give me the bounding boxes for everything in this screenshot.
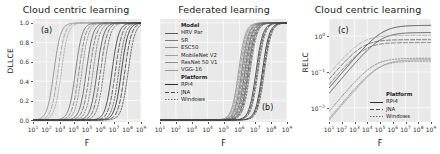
legend-item[interactable]: Windows <box>370 113 430 120</box>
x-tick-mark <box>342 122 343 124</box>
x-tick-label: 109 <box>278 125 296 133</box>
legend-group-header: Platform <box>165 74 231 81</box>
legend-item-label: SR <box>181 38 188 43</box>
panel-b-title: Federated learning <box>152 4 296 15</box>
legend-item-label: RPi4 <box>181 82 193 87</box>
x-tick-mark <box>114 122 115 124</box>
y-tick-label: 0.2 <box>11 97 29 104</box>
y-tick-label: 0.0 <box>11 117 29 124</box>
legend-item[interactable]: ResNet 50 V1 <box>165 59 231 66</box>
legend-line-swatch <box>165 44 178 51</box>
y-tick-mark <box>327 36 329 37</box>
x-tick-mark <box>33 122 34 124</box>
x-tick-mark <box>393 122 394 124</box>
legend-line-swatch <box>165 37 178 44</box>
y-tick-mark <box>31 23 33 24</box>
y-tick-mark <box>31 42 33 43</box>
x-tick-mark <box>367 122 368 124</box>
x-tick-mark <box>418 122 419 124</box>
legend-group-header: Platform <box>370 91 430 98</box>
x-tick-mark <box>128 122 129 124</box>
legend-group-label: Platform <box>370 92 412 97</box>
x-tick-mark <box>380 122 381 124</box>
legend-item-label: HRV Par <box>181 30 202 35</box>
y-tick-mark <box>31 120 33 121</box>
x-tick-mark <box>47 122 48 124</box>
panel-c-legend[interactable]: PlatformRPi4JNAWindows <box>370 91 430 121</box>
x-tick-mark <box>406 122 407 124</box>
panel-c-letter: (c) <box>338 26 349 35</box>
y-tick-label: 0.8 <box>11 39 29 46</box>
panel-a: Cloud centric learning DLLCE F (a) 0.00.… <box>0 0 152 154</box>
legend-item-label: Windows <box>386 114 410 119</box>
legend-line-swatch <box>165 30 178 37</box>
panel-c-title: Cloud centric learning <box>296 4 440 15</box>
panel-c: Cloud centric learning RELC F (c) Platfo… <box>296 0 440 154</box>
legend-item-label: JNA <box>386 107 395 112</box>
y-tick-label: 100 <box>305 32 325 40</box>
panel-b-legend[interactable]: ModelHRV ParSRESC50MobileNet V2ResNet 50… <box>165 22 231 103</box>
x-tick-mark <box>192 122 193 124</box>
x-tick-mark <box>74 122 75 124</box>
legend-item[interactable]: HRV Par <box>165 29 231 36</box>
y-tick-mark <box>327 108 329 109</box>
legend-item-label: ESC50 <box>181 45 198 50</box>
legend-item-label: Windows <box>181 97 205 102</box>
panel-b-xlabel: F <box>160 139 287 148</box>
y-tick-label: 0.4 <box>11 78 29 85</box>
legend-line-swatch <box>370 106 383 113</box>
legend-item[interactable]: JNA <box>370 106 430 113</box>
legend-item[interactable]: ESC50 <box>165 44 231 51</box>
y-tick-mark <box>31 81 33 82</box>
y-tick-mark <box>31 62 33 63</box>
x-tick-mark <box>239 122 240 124</box>
legend-item-label: VGG-16 <box>181 67 202 72</box>
x-tick-mark <box>329 122 330 124</box>
y-tick-mark <box>31 101 33 102</box>
legend-group-label: Model <box>165 23 199 28</box>
legend-item[interactable]: JNA <box>165 89 231 96</box>
y-tick-label: 10−2 <box>305 104 325 112</box>
panel-b-letter: (b) <box>262 103 273 112</box>
x-tick-mark <box>224 122 225 124</box>
y-tick-label: 10−1 <box>305 68 325 76</box>
legend-item[interactable]: Windows <box>165 96 231 103</box>
legend-item-label: JNA <box>181 90 190 95</box>
legend-item[interactable]: SR <box>165 37 231 44</box>
panel-b: Federated learning F (b) ModelHRV ParSRE… <box>152 0 296 154</box>
x-tick-mark <box>355 122 356 124</box>
legend-group-header: Model <box>165 22 231 29</box>
legend-line-swatch <box>165 67 178 74</box>
x-tick-mark <box>176 122 177 124</box>
panel-a-xlabel: F <box>33 139 141 148</box>
y-tick-label: 1.0 <box>11 19 29 26</box>
legend-line-swatch <box>165 81 178 88</box>
figure-root: Cloud centric learning DLLCE F (a) 0.00.… <box>0 0 440 154</box>
panel-a-title: Cloud centric learning <box>0 4 152 15</box>
legend-line-swatch <box>165 52 178 59</box>
x-tick-mark <box>208 122 209 124</box>
x-tick-mark <box>87 122 88 124</box>
legend-item[interactable]: MobileNet V2 <box>165 52 231 59</box>
x-tick-mark <box>271 122 272 124</box>
legend-item[interactable]: VGG-16 <box>165 66 231 73</box>
legend-line-swatch <box>165 89 178 96</box>
legend-item-label: RPi4 <box>386 99 398 104</box>
legend-group-label: Platform <box>165 75 207 80</box>
y-tick-mark <box>327 72 329 73</box>
legend-line-swatch <box>370 99 383 106</box>
panel-a-letter: (a) <box>41 26 52 35</box>
x-tick-mark <box>60 122 61 124</box>
x-tick-mark <box>431 122 432 124</box>
x-tick-mark <box>141 122 142 124</box>
legend-item-label: ResNet 50 V1 <box>181 60 218 65</box>
x-tick-label: 109 <box>422 125 440 133</box>
x-tick-mark <box>255 122 256 124</box>
legend-line-swatch <box>165 96 178 103</box>
legend-item[interactable]: RPi4 <box>370 98 430 105</box>
legend-line-swatch <box>165 59 178 66</box>
x-tick-mark <box>160 122 161 124</box>
legend-line-swatch <box>370 113 383 120</box>
panel-c-xlabel: F <box>329 139 431 148</box>
legend-item[interactable]: RPi4 <box>165 81 231 88</box>
